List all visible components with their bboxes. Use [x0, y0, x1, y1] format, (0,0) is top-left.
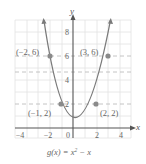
x-tick-label: 0: [66, 131, 70, 140]
y-tick-label: 4: [65, 76, 69, 85]
point-label: (−1, 2): [28, 108, 51, 118]
caption-suffix: − x: [77, 147, 91, 157]
x-axis-label: x: [135, 122, 140, 132]
point-label: (−2, 6): [16, 47, 39, 57]
x-tick-label: 2: [95, 131, 99, 140]
caption-prefix: g(x) = x: [47, 147, 75, 157]
chart-caption: g(x) = x2 − x: [47, 147, 91, 158]
point-neg1-2: [58, 101, 63, 106]
parabola-curve: [44, 20, 111, 118]
point-neg2-6: [47, 53, 52, 58]
x-tick-label: 4: [119, 131, 123, 140]
point-3-6: [105, 53, 110, 58]
axes: [15, 18, 132, 138]
curve-arrow-left-icon: [42, 18, 47, 24]
x-tick-label: −2: [44, 131, 53, 140]
point-2-2: [93, 101, 98, 106]
parabola-chart: −4 −2 0 2 4 2 4 6 8 x y (−2, 6) (3, 6) (…: [0, 0, 146, 164]
point-label: (3, 6): [80, 47, 99, 57]
y-axis-label: y: [69, 6, 74, 16]
curve-arrow-right-icon: [108, 18, 113, 24]
point-label: (2, 2): [100, 108, 119, 118]
x-tick-label: −4: [16, 131, 25, 140]
y-tick-label: 8: [65, 28, 69, 37]
y-tick-label: 6: [65, 52, 69, 61]
y-tick-label: 2: [65, 100, 69, 109]
